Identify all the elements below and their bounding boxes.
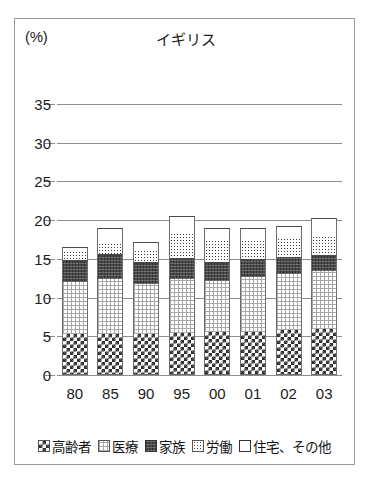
bar-segment — [204, 281, 230, 332]
bar-segment — [276, 274, 302, 330]
bar-segment — [311, 271, 337, 328]
x-axis-tick-label: 85 — [97, 385, 123, 402]
x-axis-tick-label: 90 — [133, 385, 159, 402]
bar-segment — [276, 238, 302, 257]
bar-segment — [169, 258, 195, 279]
x-axis-tick-label: 03 — [311, 385, 337, 402]
bar-segment — [240, 332, 266, 375]
legend-label: 家族 — [159, 436, 185, 456]
legend-label: 労働 — [206, 436, 232, 456]
legend-label: 高齢者 — [52, 436, 91, 456]
y-axis-tick-label: 25 — [34, 173, 51, 190]
legend-item: 住宅、その他 — [239, 436, 331, 456]
bar-segment — [204, 262, 230, 281]
bar-segment — [133, 334, 159, 375]
bar-segment — [169, 333, 195, 375]
bar-segment — [97, 228, 123, 243]
legend-swatch-icon — [145, 440, 157, 452]
x-axis-tick-label: 00 — [204, 385, 230, 402]
x-axis-tick-label: 01 — [240, 385, 266, 402]
legend-label: 医療 — [112, 436, 138, 456]
bar-segment — [169, 279, 195, 333]
legend-label: 住宅、その他 — [253, 436, 331, 456]
bar-segment — [169, 216, 195, 233]
plot-area: 35302520151050 8085909500010203 — [57, 104, 342, 375]
y-axis-tick-label: 15 — [34, 250, 51, 267]
bar-group: 8085909500010203 — [57, 104, 342, 375]
chart-legend: 高齢者医療家族労働住宅、その他 — [23, 436, 346, 456]
bar-segment — [276, 330, 302, 375]
y-axis-tick-label: 35 — [34, 96, 51, 113]
bar-segment — [311, 329, 337, 375]
y-axis-tick-label: 30 — [34, 134, 51, 151]
y-axis-tick-label: 20 — [34, 212, 51, 229]
bar-segment — [97, 334, 123, 375]
legend-swatch-icon — [239, 440, 251, 452]
bar-segment — [276, 226, 302, 238]
bar-segment — [97, 279, 123, 334]
y-axis-tick-label: 10 — [34, 289, 51, 306]
bar-segment — [204, 228, 230, 240]
bar-segment — [204, 332, 230, 375]
bar-segment — [240, 259, 266, 278]
bar-segment — [62, 282, 88, 334]
chart-title: イギリス — [15, 28, 356, 49]
bar-segment — [97, 254, 123, 279]
bar-segment — [133, 242, 159, 250]
bar-segment — [311, 255, 337, 271]
bar-segment — [62, 260, 88, 282]
legend-item: 高齢者 — [38, 436, 91, 456]
bar-segment — [311, 236, 337, 255]
bar-segment — [276, 257, 302, 275]
x-axis-tick-label: 95 — [169, 385, 195, 402]
bar-segment — [62, 251, 88, 260]
bar-segment — [133, 250, 159, 262]
x-axis-tick-label: 80 — [62, 385, 88, 402]
y-axis-tick-label: 0 — [43, 367, 51, 384]
bar-segment — [97, 243, 123, 255]
legend-swatch-icon — [38, 440, 50, 452]
bar-segment — [62, 247, 88, 251]
bar-segment — [204, 240, 230, 262]
legend-swatch-icon — [192, 440, 204, 452]
bar-segment — [240, 277, 266, 331]
legend-item: 労働 — [192, 436, 232, 456]
legend-item: 医療 — [98, 436, 138, 456]
bar-segment — [240, 228, 266, 240]
bar-segment — [62, 334, 88, 375]
bar-segment — [169, 233, 195, 259]
legend-item: 家族 — [145, 436, 185, 456]
y-axis-tick-label: 5 — [43, 328, 51, 345]
bar-segment — [311, 218, 337, 236]
gridline — [57, 375, 342, 376]
legend-swatch-icon — [98, 440, 110, 452]
chart-panel: (%) イギリス 35302520151050 8085909500010203… — [14, 18, 355, 465]
bar-segment — [133, 284, 159, 334]
x-axis-tick-label: 02 — [276, 385, 302, 402]
bar-segment — [133, 262, 159, 284]
bar-segment — [240, 240, 266, 259]
